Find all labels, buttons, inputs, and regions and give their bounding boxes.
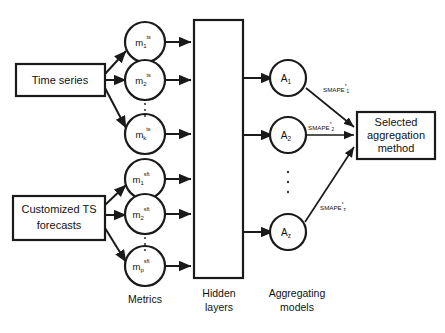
diagram-canvas: m1ts m2ts mkts m1sft m2sft mpsft A1 A2 A… (0, 0, 445, 333)
edges-metrics-to-hidden (165, 42, 191, 266)
smape-label-2: SMAPE*2 (308, 123, 334, 133)
metric-node-mpsft (125, 246, 165, 286)
selected-method-label-line3: method (378, 142, 415, 154)
caption-aggregating-line1: Aggregating (269, 287, 326, 299)
selected-method-label-line2: aggregation (367, 129, 425, 141)
caption-metrics: Metrics (128, 293, 162, 305)
hidden-layers-box (194, 20, 243, 278)
metric-nodes-sft (125, 159, 165, 286)
edges-hidden-to-aggregating (243, 78, 273, 232)
edges-forecasts-to-metrics (105, 185, 126, 262)
architecture-diagram: m1ts m2ts mkts m1sft m2sft mpsft A1 A2 A… (0, 0, 445, 333)
edge-timeseries-mkts (105, 88, 126, 128)
edges-timeseries-to-metrics (105, 51, 126, 128)
caption-hidden-layers-line2: layers (205, 301, 233, 313)
metric-node-m2sft (125, 194, 165, 234)
edges-aggregating-to-output (305, 88, 354, 222)
selected-method-label-line1: Selected (375, 116, 418, 128)
smape-label-1: SMAPE*1 (323, 85, 349, 95)
edge-timeseries-m1ts (105, 51, 126, 74)
time-series-label: Time series (32, 74, 89, 86)
caption-aggregating-line2: models (280, 301, 314, 313)
customized-forecasts-label-line1: Customized TS (22, 203, 97, 215)
caption-hidden-layers-line1: Hidden (202, 287, 235, 299)
aggregating-nodes (270, 60, 306, 250)
ellipsis-aggregating (287, 171, 289, 193)
edge-az-output (305, 147, 354, 222)
edge-forecasts-m1sft (105, 185, 126, 205)
smape-label-z: SMAPE*z (320, 203, 346, 213)
customized-forecasts-label-line2: forecasts (37, 219, 82, 231)
edge-forecasts-mpsft (105, 228, 126, 262)
